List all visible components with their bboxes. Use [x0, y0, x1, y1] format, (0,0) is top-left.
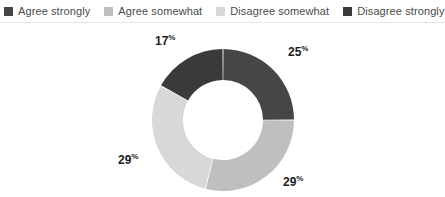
donut-slice-group	[152, 49, 294, 191]
legend-item-label: Agree somewhat	[118, 5, 202, 17]
donut-slice[interactable]	[223, 49, 294, 120]
slice-value: 25	[288, 45, 301, 59]
slice-value: 29	[118, 153, 131, 167]
chart-legend: Agree strongly Agree somewhat Disagree s…	[0, 0, 445, 22]
slice-value-label-disagree-somewhat: 29%	[118, 150, 138, 167]
legend-item-agree-strongly[interactable]: Agree strongly	[4, 5, 90, 17]
percent-symbol: %	[131, 152, 138, 161]
donut-chart-figure: Agree strongly Agree somewhat Disagree s…	[0, 0, 445, 197]
percent-symbol: %	[168, 33, 175, 42]
slice-value-label-agree-somewhat: 29%	[283, 172, 303, 189]
donut-plot-area	[151, 48, 295, 192]
legend-swatch-icon	[343, 7, 352, 16]
legend-item-disagree-strongly[interactable]: Disagree strongly	[343, 5, 444, 17]
legend-swatch-icon	[216, 7, 225, 16]
donut-svg	[151, 48, 295, 192]
legend-item-label: Disagree strongly	[357, 5, 444, 17]
slice-value-label-agree-strongly: 25%	[288, 42, 308, 59]
slice-value-label-disagree-strongly: 17%	[155, 31, 175, 48]
percent-symbol: %	[296, 174, 303, 183]
donut-slice[interactable]	[152, 86, 213, 188]
legend-item-agree-somewhat[interactable]: Agree somewhat	[104, 5, 202, 17]
slice-value: 29	[283, 175, 296, 189]
percent-symbol: %	[301, 44, 308, 53]
legend-item-disagree-somewhat[interactable]: Disagree somewhat	[216, 5, 329, 17]
legend-item-label: Disagree somewhat	[230, 5, 329, 17]
legend-divider	[0, 22, 445, 23]
donut-slice[interactable]	[206, 120, 294, 191]
legend-swatch-icon	[104, 7, 113, 16]
legend-item-label: Agree strongly	[18, 5, 90, 17]
legend-swatch-icon	[4, 7, 13, 16]
slice-value: 17	[155, 34, 168, 48]
